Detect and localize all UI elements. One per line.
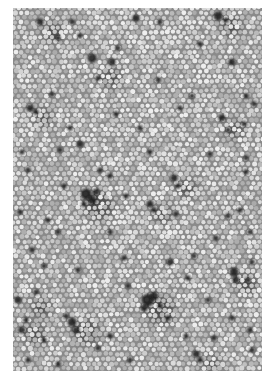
cell-mosaic-micrograph xyxy=(13,8,262,371)
mosaic-canvas xyxy=(13,8,262,371)
